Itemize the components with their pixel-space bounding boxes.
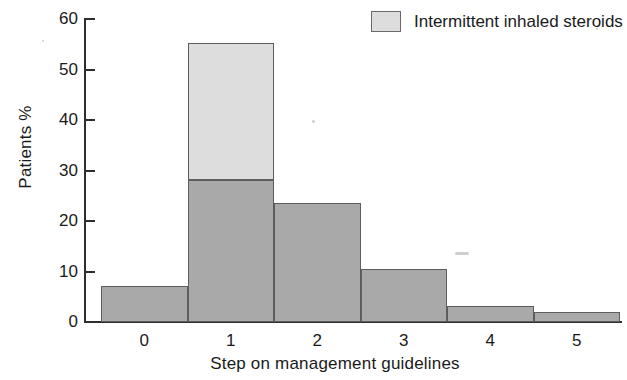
y-tick-label-20: 20 [18, 212, 78, 229]
x-axis-title: Step on management guidelines [100, 354, 570, 374]
bar-0-series-0 [101, 286, 188, 323]
scan-speckle [596, 28, 598, 30]
legend: Intermittent inhaled steroids [371, 11, 623, 32]
y-axis-title: Patients % [16, 77, 36, 217]
x-tick-label-3: 3 [374, 332, 434, 349]
y-tick-label-30: 30 [18, 162, 78, 179]
y-tick-label-60: 60 [18, 10, 78, 27]
bar-1-series-1 [188, 43, 275, 179]
scan-speckle [455, 252, 469, 255]
legend-swatch-intermittent-inhaled-steroids [371, 11, 401, 32]
scan-speckle [312, 120, 315, 123]
x-tick-label-0: 0 [114, 332, 174, 349]
bar-2-series-0 [274, 203, 361, 322]
x-tick-label-2: 2 [287, 332, 347, 349]
y-tick-label-0: 0 [18, 313, 78, 330]
y-tick-label-40: 40 [18, 111, 78, 128]
bar-1-series-0 [188, 180, 275, 323]
bar-4-series-0 [447, 306, 534, 323]
x-tick-label-4: 4 [460, 332, 520, 349]
legend-label-intermittent-inhaled-steroids: Intermittent inhaled steroids [414, 13, 623, 30]
bar-5-series-0 [534, 312, 621, 323]
x-tick-label-5: 5 [547, 332, 607, 349]
chart-figure: Patients % 0102030405060 012345 Step on … [0, 0, 627, 380]
scan-speckle [42, 40, 44, 42]
plot-area [84, 10, 622, 323]
x-tick-label-1: 1 [201, 332, 261, 349]
y-tick-label-50: 50 [18, 61, 78, 78]
y-tick-label-10: 10 [18, 263, 78, 280]
bar-3-series-0 [361, 269, 448, 322]
